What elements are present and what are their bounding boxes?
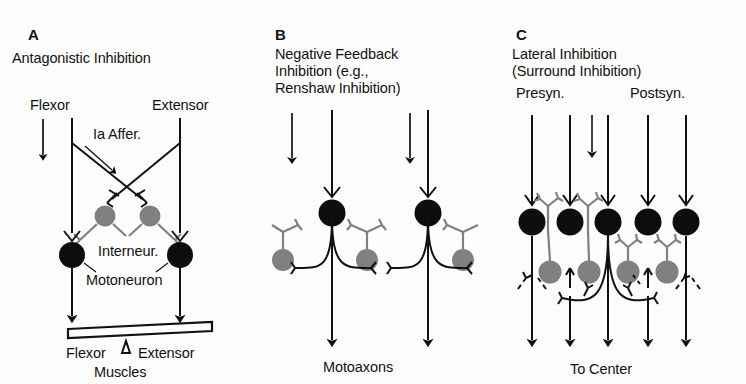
relay-neuron-3 [595, 209, 622, 236]
panel-a-right-input-label: Extensor [152, 97, 209, 113]
renshaw-interneuron-1 [272, 249, 294, 271]
motoneuron-left [59, 242, 85, 268]
panel-b-diagram: Motoaxons [250, 0, 500, 384]
panel-a-muscle-caption: Muscles [94, 364, 146, 380]
panel-a-motoneuron-label: Motoneuron [86, 272, 162, 288]
relay-neuron-1 [519, 209, 546, 236]
panel-b-output-label: Motoaxons [323, 359, 393, 375]
interneuron-right [140, 206, 161, 227]
muscle-bar [68, 322, 212, 338]
panel-a-muscle-right-label: Extensor [138, 345, 195, 361]
panel-a: A Antagonistic Inhibition Flexor Extenso… [0, 0, 250, 384]
panel-c-diagram: Presyn. Postsyn. [500, 0, 746, 384]
panel-c-presyn-label: Presyn. [516, 85, 564, 101]
relay-neuron-5 [673, 209, 700, 236]
panel-a-afferent-label: Ia Affer. [93, 126, 141, 142]
motoneuron-right [167, 242, 193, 268]
panel-a-interneuron-label: Interneur. [98, 243, 158, 259]
inhibitory-interneuron-3 [617, 261, 640, 284]
inhibitory-interneuron-4 [656, 261, 679, 284]
inhibitory-interneuron-2 [578, 261, 601, 284]
figure-root: A Antagonistic Inhibition Flexor Extenso… [0, 0, 746, 384]
inhibitory-interneuron-1 [539, 261, 562, 284]
panel-b: B Negative Feedback Inhibition (e.g., Re… [250, 0, 500, 384]
panel-a-muscle-left-label: Flexor [66, 345, 106, 361]
interneuron-left [95, 206, 116, 227]
panel-a-diagram: Flexor Extensor Ia Affer. [0, 0, 250, 384]
panel-c-postsyn-label: Postsyn. [630, 85, 685, 101]
panel-a-left-input-label: Flexor [30, 97, 70, 113]
panel-c: C Lateral Inhibition (Surround Inhibitio… [500, 0, 746, 384]
relay-neuron-4 [635, 209, 662, 236]
fulcrum-triangle [122, 341, 130, 353]
panel-c-output-label: To Center [570, 361, 632, 377]
relay-neuron-2 [557, 209, 584, 236]
